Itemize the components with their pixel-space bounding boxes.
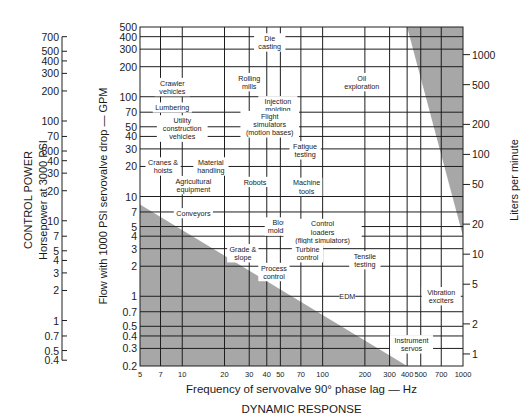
x-tick-label: 50 <box>276 370 284 379</box>
application-label: Robots <box>241 177 268 187</box>
liters-per-minute-axis: 1000500200100502010521 <box>463 49 496 360</box>
x-tick-label: 70 <box>297 370 305 379</box>
application-label: Oilexploration <box>338 73 385 91</box>
lpm-tick-label: 10 <box>472 248 484 260</box>
application-label-line: casting <box>258 42 281 51</box>
hp-tick-label: 300 <box>41 67 59 79</box>
x-tick-label: 1000 <box>455 370 472 379</box>
hp-tick-label: 700 <box>41 31 59 43</box>
application-label-line: (motion bases) <box>246 128 294 137</box>
gpm-tick-label: 3 <box>131 243 137 255</box>
lpm-tick-label: 5 <box>472 278 478 290</box>
infeasible-high-flow-high-frequency <box>407 27 463 236</box>
application-label: Instrumentservos <box>390 335 433 353</box>
gpm-tick-label: 30 <box>125 143 137 155</box>
gpm-axis-ticks: 5004003002001007050403020107543210.70.50… <box>119 21 137 372</box>
hp-tick-label: 3 <box>53 267 59 279</box>
application-label-line: vehicles <box>169 132 195 141</box>
lpm-tick-label: 200 <box>472 118 490 130</box>
hp-tick-label: 4 <box>53 254 59 266</box>
application-label-line: Lumbering <box>155 103 189 112</box>
application-label-line: EDM <box>339 292 355 301</box>
gpm-tick-label: 100 <box>119 91 137 103</box>
x-axis-ticks: 571020304050701002003004005007001000 <box>138 370 471 379</box>
application-label-line: servos <box>401 344 423 353</box>
lpm-tick-label: 100 <box>472 148 490 160</box>
x-axis-title: Frequency of servovalve 90° phase lag — … <box>186 383 417 395</box>
gpm-tick-label: 10 <box>125 191 137 203</box>
gpm-tick-label: 4 <box>131 230 137 242</box>
x-tick-label: 7 <box>158 370 162 379</box>
application-label-line: equipment <box>177 185 211 194</box>
servovalve-application-chart: DiecastingRollingmillsOilexplorationCraw… <box>0 0 529 419</box>
x-tick-label: 5 <box>138 370 142 379</box>
gpm-tick-label: 0.2 <box>122 360 137 372</box>
application-label: Vibrationexciters <box>422 287 461 305</box>
hp-tick-label: 20 <box>47 185 59 197</box>
application-label-line: exciters <box>429 296 454 305</box>
hp-tick-label: 40 <box>47 155 59 167</box>
hp-tick-label: 1 <box>53 315 59 327</box>
gpm-tick-label: 70 <box>125 106 137 118</box>
application-label: Agriculturalequipment <box>168 176 219 194</box>
application-label: Crawlervehicles <box>155 78 190 96</box>
gpm-tick-label: 7 <box>131 206 137 218</box>
application-label-line: Conveyors <box>176 209 211 218</box>
application-label: Utilityconstructionvehicles <box>157 115 208 142</box>
application-label: Rollingmills <box>234 73 265 91</box>
x-tick-label: 20 <box>220 370 228 379</box>
application-label-line: testing <box>354 260 375 269</box>
gpm-tick-label: 0.3 <box>122 342 137 354</box>
lpm-axis-title: Liters per minute <box>508 139 520 221</box>
x-tick-label: 700 <box>435 370 448 379</box>
application-label-line: Robots <box>244 178 267 187</box>
lpm-tick-label: 1 <box>472 348 478 360</box>
application-label: Tensiletesting <box>349 251 380 269</box>
application-label-line: hoists <box>154 166 173 175</box>
gpm-tick-label: 40 <box>125 130 137 142</box>
hp-tick-label: 400 <box>41 55 59 67</box>
application-label-line: (flight simulators) <box>295 236 350 245</box>
application-label-line: mills <box>242 82 257 91</box>
gpm-tick-label: 1 <box>131 290 137 302</box>
application-label: Lumbering <box>153 102 192 112</box>
hp-tick-label: 200 <box>41 85 59 97</box>
application-label: Cranes &hoists <box>145 157 180 175</box>
application-label-line: handling <box>197 166 224 175</box>
x-tick-label: 10 <box>178 370 186 379</box>
application-label-line: testing <box>294 150 315 159</box>
hp-tick-label: 2 <box>53 284 59 296</box>
application-label: Fatiguetesting <box>289 141 320 159</box>
application-label: Diecasting <box>254 33 285 51</box>
gpm-tick-label: 0.7 <box>122 306 137 318</box>
hp-tick-label: 0.4 <box>44 354 59 366</box>
lpm-tick-label: 50 <box>472 178 484 190</box>
application-label: Machinetools <box>291 178 322 196</box>
lpm-tick-label: 20 <box>472 218 484 230</box>
application-label: Conveyors <box>174 208 213 218</box>
power-axis-title: CONTROL POWER <box>22 151 34 249</box>
x-tick-label: 500 <box>414 370 427 379</box>
x-tick-label: 300 <box>383 370 396 379</box>
application-label-line: control <box>263 272 285 281</box>
gpm-tick-label: 2 <box>131 260 137 272</box>
gpm-tick-label: 0.4 <box>122 330 137 342</box>
application-label-line: control <box>297 253 319 262</box>
application-label: Grade &slope <box>227 244 258 262</box>
x-tick-label: 40 <box>263 370 271 379</box>
hp-tick-label: 70 <box>47 130 59 142</box>
hp-tick-label: 7 <box>53 230 59 242</box>
application-label-line: tools <box>299 187 315 196</box>
x-tick-label: 200 <box>359 370 372 379</box>
application-label: Processcontrol <box>258 263 289 281</box>
gpm-tick-label: 200 <box>119 61 137 73</box>
x-tick-label: 100 <box>316 370 329 379</box>
application-label: Controlloaders(flight simulators) <box>284 219 362 246</box>
application-label: Flightsimulators(motion bases) <box>240 111 299 138</box>
application-label: EDM <box>339 291 355 301</box>
gpm-tick-label: 400 <box>119 31 137 43</box>
lpm-tick-label: 500 <box>472 79 490 91</box>
power-axis-subtitle: Horsepower at 3000 PSI <box>37 140 49 260</box>
application-label-line: vehicles <box>159 87 185 96</box>
application-label-line: slope <box>234 253 251 262</box>
